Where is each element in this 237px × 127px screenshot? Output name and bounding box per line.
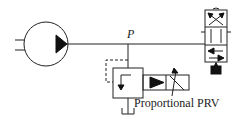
- valve-arrowhead-1: [208, 13, 213, 18]
- prv-arrow-icon: [118, 85, 124, 90]
- valve-spring-icon: [213, 8, 219, 9]
- proportional-arrow-icon: [172, 68, 178, 73]
- solenoid-triangle-icon: [150, 77, 164, 88]
- pump-symbol: [15, 22, 68, 66]
- valve-arrowhead-2: [219, 13, 224, 18]
- prv-valve-box: [113, 68, 143, 98]
- valve-left-arrow-icon: [208, 48, 214, 54]
- valve-right-arrow-icon: [218, 55, 224, 61]
- pump-flow-triangle-icon: [56, 35, 67, 53]
- valve-body: [205, 10, 227, 62]
- prv-label: Proportional PRV: [134, 96, 219, 111]
- prv-pilot-dashed-line: [106, 60, 128, 82]
- pressure-node-label: P: [127, 27, 134, 42]
- solenoid-x-line-1: [170, 76, 184, 90]
- directional-valve-symbol: [201, 8, 231, 74]
